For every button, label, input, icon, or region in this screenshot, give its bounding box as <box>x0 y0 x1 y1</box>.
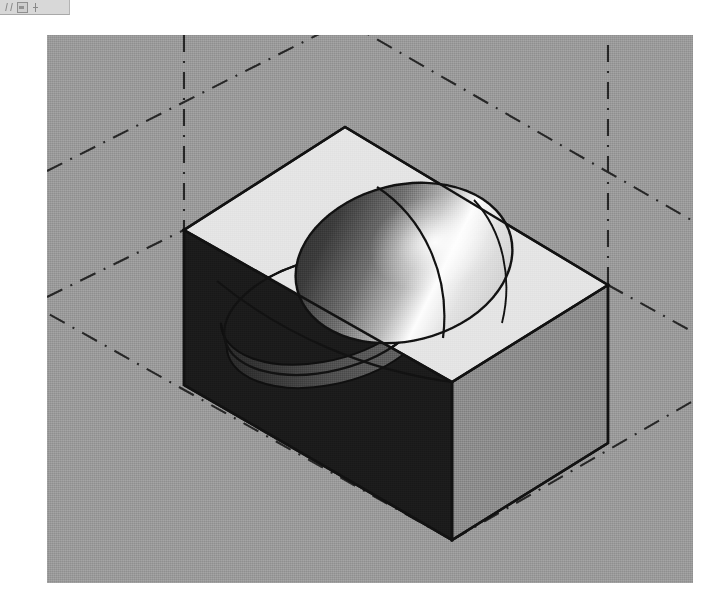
pan-icon[interactable] <box>4 3 13 12</box>
axis-icon[interactable] <box>32 3 41 12</box>
model-canvas[interactable] <box>47 35 693 583</box>
construction-line-mid-left <box>47 230 184 297</box>
render-shaded-icon[interactable] <box>17 2 28 13</box>
construction-line-upper-left <box>47 35 345 171</box>
toolbar-fragment[interactable] <box>0 0 70 15</box>
construction-line-mid-right <box>608 285 693 332</box>
viewport-3d[interactable] <box>47 35 693 583</box>
